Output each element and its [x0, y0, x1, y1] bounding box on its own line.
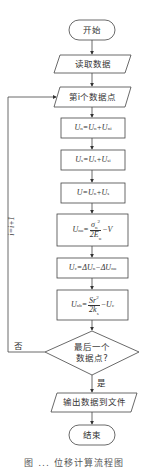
no-label: 否 [12, 340, 24, 352]
formula-5: Uc=ΔUn−ΔUnu [57, 258, 128, 278]
formula-6: Unb= Sr22ks −Uc [57, 290, 128, 320]
formula-4: Unu= σn22Eu −V [57, 214, 128, 246]
figure-caption: 图 ... 位移计算流程图 [0, 456, 148, 469]
formula-2: Us=Us+Usi [61, 150, 125, 170]
loop-label: i=i+1 [6, 206, 18, 246]
output-label: 输出数据到文件 [51, 393, 137, 412]
formula-3: U=Un+Us [61, 183, 125, 203]
read-data-label: 读取数据 [54, 55, 131, 73]
formula-1: Un=Un+Uni [61, 118, 125, 138]
decision-label: 最后一个 数据点? [60, 337, 124, 369]
point-i-label: 第i个数据点 [54, 87, 131, 107]
end-label: 结束 [69, 425, 115, 445]
yes-label: 是 [95, 377, 107, 389]
start-label: 开始 [69, 20, 115, 40]
